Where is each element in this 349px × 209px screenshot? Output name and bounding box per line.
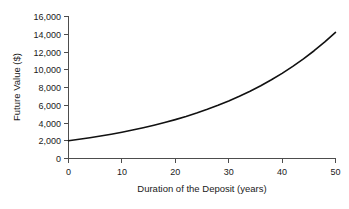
x-tick-label: 50 (330, 167, 340, 177)
x-axis-title: Duration of the Deposit (years) (137, 183, 266, 194)
y-tick-label: 8,000 (38, 83, 61, 93)
y-tick-label: 14,000 (33, 30, 61, 40)
y-tick-label: 0 (56, 154, 61, 164)
chart-canvas: 16,000 14,000 12,000 10,000 8,000 6,000 … (0, 0, 349, 209)
y-axis-ticks (64, 17, 68, 159)
future-value-curve (69, 32, 336, 140)
y-tick-label: 6,000 (38, 101, 61, 111)
x-tick-label: 10 (117, 167, 127, 177)
y-tick-label: 12,000 (33, 48, 61, 58)
y-tick-label: 10,000 (33, 65, 61, 75)
y-tick-label: 4,000 (38, 119, 61, 129)
x-tick-label: 30 (224, 167, 234, 177)
x-tick-label: 0 (66, 167, 71, 177)
compound-interest-chart: 16,000 14,000 12,000 10,000 8,000 6,000 … (0, 0, 349, 209)
x-tick-label: 20 (170, 167, 180, 177)
y-tick-label: 16,000 (33, 12, 61, 22)
x-axis-tick-labels: 0 10 20 30 40 50 (66, 167, 341, 177)
y-axis-tick-labels: 16,000 14,000 12,000 10,000 8,000 6,000 … (33, 12, 61, 164)
x-tick-label: 40 (277, 167, 287, 177)
y-tick-label: 2,000 (38, 136, 61, 146)
y-axis-title: Future Value ($) (11, 53, 22, 121)
